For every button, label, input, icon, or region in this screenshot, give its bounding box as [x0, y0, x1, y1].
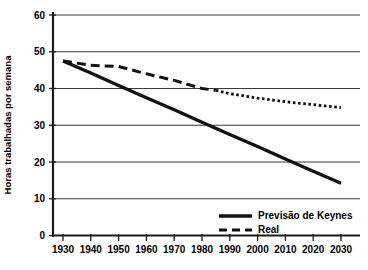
chart-legend: Previsão de KeynesReal [219, 210, 353, 235]
x-tick-label: 1940 [80, 244, 103, 255]
y-tick-label: 50 [34, 46, 46, 57]
line-chart: 0102030405060 19301940195019601970198019… [0, 0, 368, 270]
legend-label: Real [258, 224, 279, 235]
x-tick-label: 1930 [52, 244, 75, 255]
x-tick-label: 1970 [163, 244, 186, 255]
x-tick-label: 1960 [135, 244, 158, 255]
chart-container: 0102030405060 19301940195019601970198019… [0, 0, 368, 270]
x-axis-ticks-group: 1930194019501960197019801990200020102020… [52, 234, 353, 255]
x-tick-label: 1990 [219, 244, 242, 255]
x-tick-label: 2000 [246, 244, 269, 255]
x-tick-label: 2020 [302, 244, 325, 255]
series-line-real-dashed-segment [63, 61, 216, 90]
x-tick-label: 1950 [107, 244, 130, 255]
series-line-previsao-de-keynes [63, 61, 341, 183]
y-tick-label: 10 [34, 193, 46, 204]
y-tick-label: 60 [34, 10, 46, 21]
y-tick-label: 30 [34, 120, 46, 131]
series-line-real-dotted-segment [216, 90, 341, 107]
y-axis-title: Horas trabalhadas por semana [2, 55, 13, 195]
x-tick-label: 2010 [274, 244, 297, 255]
legend-label: Previsão de Keynes [258, 210, 353, 221]
x-tick-label: 1980 [191, 244, 214, 255]
y-tick-label: 40 [34, 83, 46, 94]
y-tick-label: 20 [34, 157, 46, 168]
x-tick-label: 2030 [330, 244, 353, 255]
y-tick-label: 0 [39, 230, 45, 241]
series-group [63, 61, 341, 183]
